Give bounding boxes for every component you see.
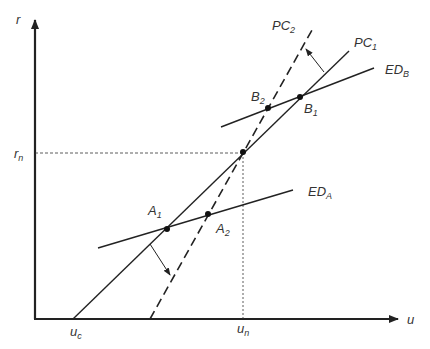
edb-label: EDB bbox=[385, 62, 409, 79]
uc-label: uc bbox=[70, 324, 82, 341]
rn-label: rn bbox=[14, 146, 23, 163]
pc2-label: PC2 bbox=[272, 18, 295, 35]
point-a1 bbox=[164, 226, 170, 232]
pc2-curve bbox=[150, 30, 312, 319]
shift-arrow-down-icon bbox=[150, 244, 170, 275]
b2-label: B2 bbox=[251, 89, 265, 106]
pc1-label: PC1 bbox=[354, 35, 377, 52]
y-axis-label: r bbox=[16, 12, 21, 27]
un-label: un bbox=[237, 321, 249, 338]
point-b1 bbox=[297, 94, 303, 100]
x-axis-label: u bbox=[407, 312, 414, 327]
point-b2 bbox=[265, 105, 271, 111]
eda-label: EDA bbox=[308, 184, 332, 201]
point-a2 bbox=[205, 211, 211, 217]
diagram-canvas: r u rn uc un PC2 PC1 EDB EDA A1 A2 B2 B1 bbox=[0, 0, 430, 349]
point-equilibrium bbox=[240, 149, 246, 155]
a1-label: A1 bbox=[147, 203, 162, 220]
a2-label: A2 bbox=[215, 221, 230, 238]
shift-arrow-up-icon bbox=[306, 49, 324, 72]
b1-label: B1 bbox=[304, 101, 318, 118]
